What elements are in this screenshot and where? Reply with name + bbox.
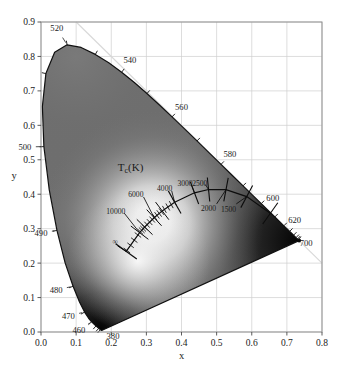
color-temperature-label: 4000 — [157, 184, 172, 193]
wavelength-label: 490 — [35, 228, 48, 238]
y-axis-tick-label: 0.4 — [23, 190, 35, 200]
wavelength-label: 380 — [107, 331, 120, 341]
y-axis-tick-label: 0.5 — [23, 155, 35, 165]
chromaticity-diagram-figure: 0.00.10.20.30.40.50.60.70.80.00.10.20.30… — [0, 0, 340, 379]
x-axis-tick-label: 0.8 — [316, 338, 328, 348]
wavelength-label: 480 — [50, 285, 63, 295]
x-axis-title: x — [179, 350, 185, 361]
color-temperature-label: ∞ — [112, 237, 117, 246]
locus-endpoint-marker — [297, 239, 301, 243]
x-axis-tick-label: 0.6 — [246, 338, 258, 348]
wavelength-label: 500 — [18, 142, 31, 152]
x-axis-tick-label: 0.0 — [35, 338, 47, 348]
color-temperature-label: 3000 — [177, 179, 192, 188]
color-temperature-label: 1500 — [221, 205, 236, 214]
y-axis-tick-label: 0.9 — [23, 17, 35, 27]
y-axis-tick-label: 0.3 — [23, 224, 35, 234]
x-axis-tick-label: 0.5 — [211, 338, 223, 348]
wavelength-label: 580 — [224, 149, 237, 159]
wavelength-label: 600 — [266, 193, 279, 203]
y-axis-tick-label: 0.0 — [23, 327, 35, 337]
y-axis-tick-label: 0.7 — [23, 86, 35, 96]
wavelength-label: 540 — [123, 55, 136, 65]
y-axis-tick-label: 0.8 — [23, 52, 35, 62]
color-temperature-label: 2000 — [201, 204, 216, 213]
color-temperature-label: 6000 — [128, 190, 143, 199]
y-axis-tick-label: 0.6 — [23, 121, 35, 131]
x-axis-tick-label: 0.4 — [176, 338, 188, 348]
color-temperature-label: 10000 — [106, 207, 125, 216]
wavelength-label: 460 — [72, 325, 85, 335]
wavelength-label: 700 — [300, 238, 313, 248]
wavelength-label: 470 — [62, 311, 75, 321]
y-axis-tick-label: 0.1 — [23, 293, 35, 303]
x-axis-tick-label: 0.1 — [70, 338, 82, 348]
y-axis-title: y — [11, 170, 17, 181]
wavelength-label: 620 — [288, 215, 301, 225]
y-axis-tick-label: 0.2 — [23, 259, 35, 269]
wavelength-label: 520 — [50, 23, 63, 33]
x-axis-tick-label: 0.7 — [281, 338, 293, 348]
color-temperature-label: 2500 — [192, 179, 207, 188]
wavelength-label: 560 — [175, 102, 188, 112]
chart-canvas: 0.00.10.20.30.40.50.60.70.80.00.10.20.30… — [0, 0, 340, 379]
x-axis-tick-label: 0.3 — [140, 338, 152, 348]
plot-stage: 0.00.10.20.30.40.50.60.70.80.00.10.20.30… — [0, 0, 340, 379]
